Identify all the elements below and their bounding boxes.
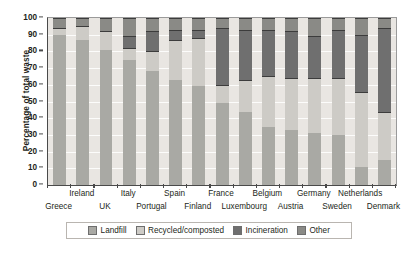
legend-item[interactable]: Recycled/composted [136,226,225,235]
stacked-bar[interactable] [308,18,321,185]
y-tick-mark [39,150,43,151]
bar-segment [355,92,368,167]
bar-slot [303,18,326,185]
legend-item[interactable]: Other [297,226,330,235]
bar-segment [53,35,66,185]
y-tick-mark [39,16,43,17]
bar-segment [378,18,391,28]
bar-slot [164,18,187,185]
y-tick-mark [39,83,43,84]
bar-segment [262,30,275,77]
legend-item[interactable]: Incineration [233,226,288,235]
y-tick-mark [39,50,43,51]
y-axis-ticks: 0102030405060708090100 [0,17,44,184]
x-tick-label: France [208,189,233,198]
bar-segment [262,127,275,185]
bar-segment [123,60,136,185]
bar-segment [355,35,368,92]
bar-segment [146,71,159,185]
bar-segment [169,80,182,185]
legend-item[interactable]: Landfill [88,226,126,235]
y-tick-label: 100 [23,13,37,22]
bar-segment [216,18,229,28]
x-tick-label: Portugal [136,202,167,211]
bar-segment [76,40,89,185]
bar-segment [146,51,159,71]
bar-segment [239,18,252,30]
x-tick-label: Germany [297,189,331,198]
bar-segment [378,112,391,160]
bar-segment [100,50,113,185]
bar-segment [378,28,391,112]
legend-swatch-icon [88,226,97,235]
bar-slot [94,18,117,185]
y-tick-mark [39,33,43,34]
bar-segment [169,40,182,80]
bar-slot [210,18,233,185]
stacked-bar[interactable] [123,18,136,185]
bar-segment [355,18,368,35]
bar-segment [53,28,66,35]
bar-segment [100,31,113,49]
bar-slot [257,18,280,185]
bar-segment [192,86,205,185]
x-tick-label: Greece [45,202,72,211]
x-tick-label: Ireland [69,189,94,198]
y-tick-label: 50 [28,96,37,105]
bar-segment [262,18,275,30]
stacked-bar[interactable] [192,18,205,185]
stacked-bar[interactable] [53,18,66,185]
bar-segment [355,167,368,185]
bar-segment [285,18,298,31]
bar-segment [169,30,182,40]
y-tick-label: 40 [28,113,37,122]
bar-slot [234,18,257,185]
bar-group [48,18,396,185]
bar-segment [123,18,136,36]
legend-label: Other [309,226,329,235]
stacked-bar[interactable] [285,18,298,185]
bar-slot [350,18,373,185]
stacked-bar[interactable] [378,18,391,185]
bar-slot [187,18,210,185]
x-tick-label: Netherlands [338,189,382,198]
stacked-bar[interactable] [76,18,89,185]
stacked-bar[interactable] [355,18,368,185]
bar-segment [146,18,159,31]
stacked-bar[interactable] [332,18,345,185]
stacked-bar[interactable] [146,18,159,185]
bar-segment [192,30,205,38]
stacked-bar[interactable] [216,18,229,185]
bar-segment [262,76,275,126]
bar-slot [373,18,396,185]
bar-segment [123,48,136,60]
y-tick-mark [39,183,43,184]
stacked-bar[interactable] [262,18,275,185]
y-tick-label: 20 [28,146,37,155]
bar-segment [308,133,321,185]
bar-slot [280,18,303,185]
y-tick-label: 60 [28,79,37,88]
x-axis-labels: GreeceIrelandUKItalyPortugalSpainFinland… [0,188,415,218]
bar-segment [285,31,298,78]
bar-segment [378,160,391,185]
bar-segment [285,78,298,130]
legend-label: Incineration [246,226,288,235]
bar-segment [308,78,321,133]
bar-segment [192,18,205,30]
y-tick-mark [39,100,43,101]
x-tick-label: Austria [278,202,303,211]
stacked-bar[interactable] [169,18,182,185]
x-tick-label: Sweden [322,202,352,211]
bar-segment [332,18,345,30]
y-tick-mark [39,167,43,168]
y-tick-label: 90 [28,29,37,38]
bar-segment [308,36,321,78]
bar-segment [100,18,113,31]
x-tick-label: Spain [164,189,185,198]
stacked-bar[interactable] [239,18,252,185]
x-tick-label: Luxembourg [221,202,267,211]
x-tick-label: Finland [184,202,211,211]
stacked-bar[interactable] [100,18,113,185]
bar-segment [285,130,298,185]
